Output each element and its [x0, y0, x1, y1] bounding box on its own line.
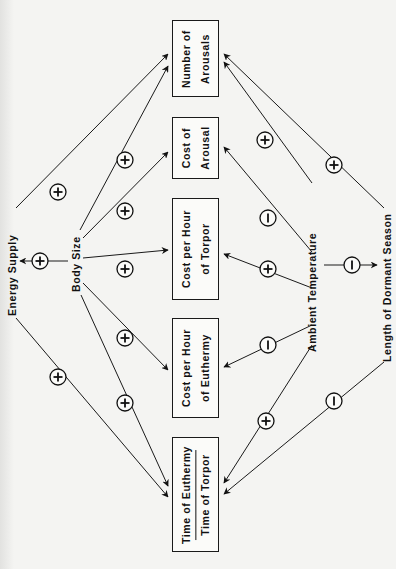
- box-label-line1: Number of: [180, 30, 192, 88]
- edge-temp-to-arousals: [224, 62, 312, 183]
- plus-sign-icon: [50, 369, 66, 385]
- box-cost-of-arousal: Cost ofArousal: [172, 117, 219, 179]
- edge-temp-to-cost-arousal: [224, 147, 312, 252]
- edge-energy-to-time: [16, 318, 168, 497]
- plus-sign-icon: [50, 184, 66, 200]
- plus-sign-icon: [258, 413, 274, 429]
- box-cost-per-hour-euthermy: Cost per Hourof Euthermy: [172, 318, 219, 418]
- box-label-line2: of Torpor: [199, 223, 211, 274]
- box-label-line2: Arousal: [199, 126, 211, 169]
- plus-sign-icon: [117, 395, 133, 411]
- box-time-ratio: Time of EuthermyTime of Torpor: [172, 437, 219, 552]
- plus-sign-icon: [260, 261, 276, 277]
- ratio-numerator: Time of Euthermy: [180, 445, 192, 543]
- box-label-line2: Arousals: [199, 34, 211, 84]
- plus-sign-icon: [117, 330, 133, 346]
- minus-sign-icon: [260, 337, 276, 353]
- plus-sign-icon: [117, 152, 133, 168]
- label-length-of-dormant-season: Length of Dormant Season: [381, 213, 393, 362]
- box-label-line2: of Euthermy: [199, 334, 211, 402]
- plus-sign-icon: [32, 253, 48, 269]
- box-number-of-arousals: Number ofArousals: [172, 20, 219, 97]
- ratio-denominator: Time of Torpor: [199, 454, 211, 536]
- label-energy-supply: Energy Supply: [6, 235, 18, 316]
- label-ambient-temperature: Ambient Temperature: [306, 233, 318, 352]
- minus-sign-icon: [344, 257, 360, 273]
- box-cost-per-hour-torpor: Cost per Hourof Torpor: [172, 198, 219, 300]
- label-body-size: Body Size: [70, 236, 82, 292]
- minus-sign-icon: [326, 393, 342, 409]
- edge-body-to-torpor: [83, 250, 168, 258]
- minus-sign-icon: [260, 210, 276, 226]
- edge-dormant-to-arousals: [224, 54, 384, 208]
- plus-sign-icon: [117, 261, 133, 277]
- plus-sign-icon: [117, 203, 133, 219]
- box-label-line1: Cost of: [180, 128, 192, 168]
- plus-sign-icon: [326, 157, 342, 173]
- box-label-line1: Cost per Hour: [180, 329, 192, 407]
- plus-sign-icon: [257, 132, 273, 148]
- edge-energy-to-arousals: [16, 54, 168, 208]
- fraction-bar: [195, 449, 196, 539]
- box-label-line1: Cost per Hour: [180, 210, 192, 288]
- edge-dormant-to-time: [224, 362, 384, 494]
- edge-body-to-time: [81, 295, 168, 486]
